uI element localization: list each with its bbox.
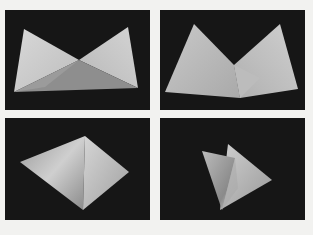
tetrahedral-fold-shape [160,118,305,220]
panel-bottom-right [160,118,305,220]
pyramid-fold-shape [5,118,150,220]
panel-bottom-left [5,118,150,220]
m-fold-shape [160,10,305,110]
panel-top-left [5,10,150,110]
bowtie-fold-shape [5,10,150,110]
panel-top-right [160,10,305,110]
